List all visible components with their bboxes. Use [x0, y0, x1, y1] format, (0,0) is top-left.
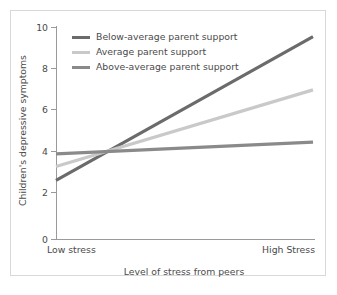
x-axis-line: [56, 239, 315, 240]
legend-swatch-above-average-icon: [72, 66, 90, 69]
x-axis-tick-label-low-stress: Low stress: [47, 244, 96, 255]
chart-legend: Below-average parent support Average par…: [72, 30, 262, 75]
legend-label-above-average: Above-average parent support: [96, 60, 239, 74]
y-axis-tick-label-0: 0: [22, 235, 48, 244]
legend-item-below-average: Below-average parent support: [72, 30, 262, 45]
legend-label-below-average: Below-average parent support: [96, 30, 237, 44]
legend-item-above-average: Above-average parent support: [72, 60, 262, 75]
legend-swatch-below-average-icon: [72, 36, 90, 39]
legend-swatch-average-icon: [72, 51, 90, 54]
x-axis-tick-label-high-stress: High Stress: [253, 244, 315, 255]
line-average-parent-support: [56, 90, 313, 167]
y-axis-title: Children's depressive symptoms: [17, 31, 28, 231]
x-axis-title: Level of stress from peers: [55, 266, 313, 277]
chart-figure: 10 8 6 4 2 0 Children's depressive sympt…: [0, 0, 337, 295]
line-above-average-parent-support: [56, 142, 313, 154]
legend-label-average: Average parent support: [96, 45, 206, 59]
legend-item-average: Average parent support: [72, 45, 262, 60]
